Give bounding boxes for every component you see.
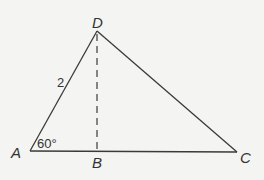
triangle-diagram: D A B C 2 60°: [0, 0, 264, 180]
label-B: B: [92, 154, 102, 171]
side-length-label: 2: [57, 75, 64, 90]
edge-AC: [30, 151, 237, 152]
edge-AD: [30, 31, 97, 151]
edge-DC: [97, 31, 237, 152]
angle-label: 60°: [37, 136, 57, 151]
label-D: D: [92, 14, 103, 31]
label-C: C: [240, 149, 251, 166]
label-A: A: [10, 144, 21, 161]
